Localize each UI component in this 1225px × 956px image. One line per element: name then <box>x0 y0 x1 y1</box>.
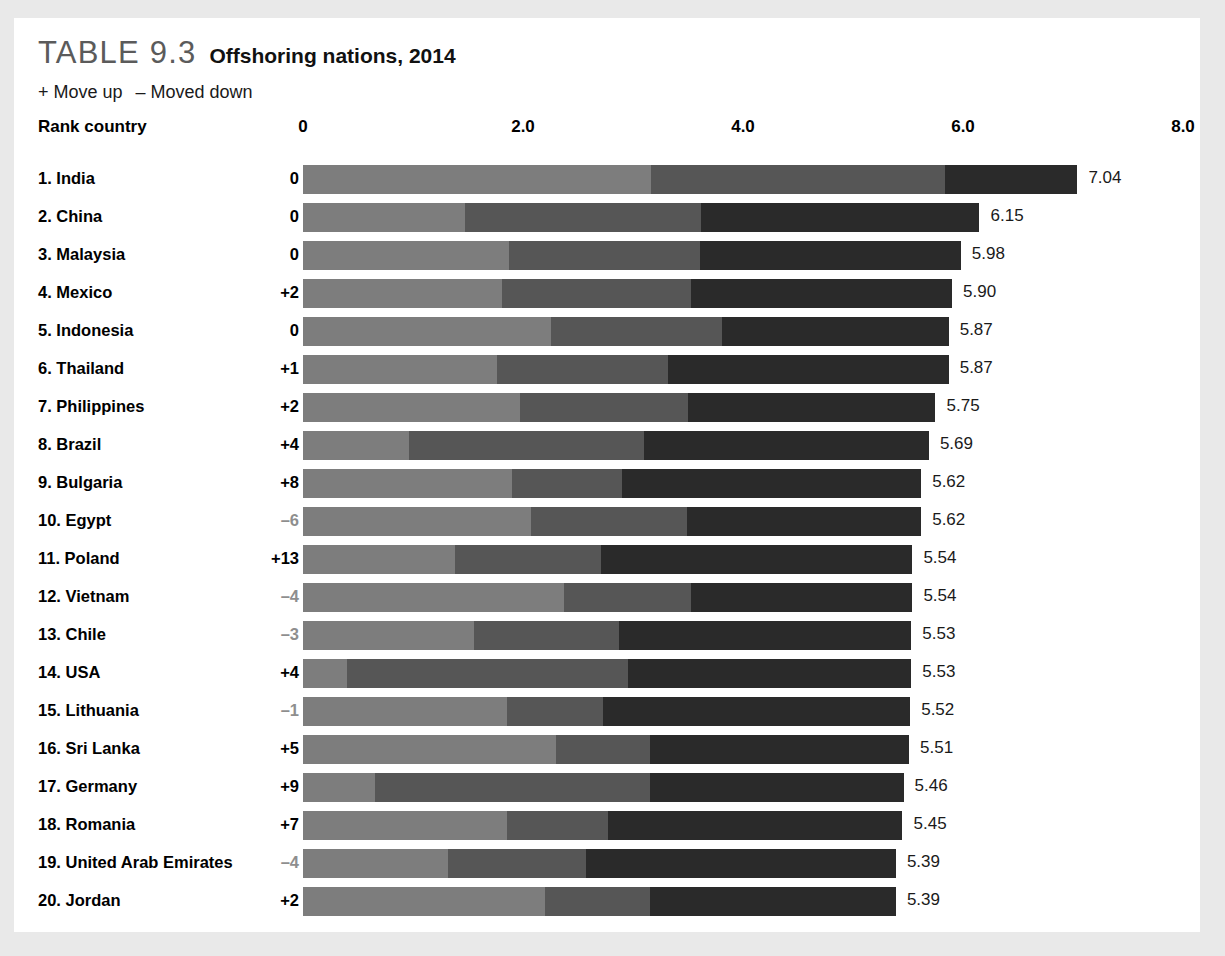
rank-change-value: +2 <box>144 283 299 302</box>
stacked-bar <box>303 241 961 270</box>
bar-segment-2 <box>507 697 604 726</box>
country-label: 14. USA <box>38 663 100 682</box>
table-row: 16. Sri Lanka+55.51 <box>14 733 1200 771</box>
page-background: TABLE 9.3Offshoring nations, 2014 + Move… <box>0 0 1225 956</box>
rank-change-value: +2 <box>144 891 299 910</box>
table-rows: 1. India07.042. China06.153. Malaysia05.… <box>14 163 1200 923</box>
country-label: 3. Malaysia <box>38 245 125 264</box>
bar-segment-1 <box>303 355 497 384</box>
table-row: 17. Germany+95.46 <box>14 771 1200 809</box>
bar-segment-3 <box>619 621 912 650</box>
stacked-bar <box>303 393 935 422</box>
country-label: 8. Brazil <box>38 435 101 454</box>
table-row: 10. Egypt–65.62 <box>14 505 1200 543</box>
bar-segment-2 <box>520 393 688 422</box>
rank-change-value: +5 <box>144 739 299 758</box>
bar-segment-3 <box>644 431 929 460</box>
country-label: 20. Jordan <box>38 891 121 910</box>
bar-value-label: 5.54 <box>923 548 956 568</box>
bar-segment-2 <box>502 279 691 308</box>
stacked-bar <box>303 469 921 498</box>
bar-segment-2 <box>531 507 687 536</box>
bar-segment-2 <box>509 241 700 270</box>
bar-segment-1 <box>303 507 531 536</box>
bar-segment-2 <box>375 773 650 802</box>
bar-segment-2 <box>551 317 723 346</box>
table-row: 2. China06.15 <box>14 201 1200 239</box>
bar-segment-2 <box>347 659 628 688</box>
rank-change-value: 0 <box>144 245 299 264</box>
bar-segment-2 <box>465 203 702 232</box>
x-axis-tick-6-0: 6.0 <box>951 117 975 137</box>
bar-segment-3 <box>722 317 949 346</box>
bar-segment-3 <box>601 545 912 574</box>
table-row: 18. Romania+75.45 <box>14 809 1200 847</box>
stacked-bar <box>303 431 929 460</box>
bar-segment-1 <box>303 697 507 726</box>
x-axis-tick-8-0: 8.0 <box>1171 117 1195 137</box>
country-label: 11. Poland <box>38 549 120 568</box>
stacked-bar <box>303 203 979 232</box>
stacked-bar <box>303 317 949 346</box>
bar-value-label: 7.04 <box>1088 168 1121 188</box>
table-row: 7. Philippines+25.75 <box>14 391 1200 429</box>
country-label: 12. Vietnam <box>38 587 129 606</box>
stacked-bar <box>303 507 921 536</box>
stacked-bar <box>303 811 902 840</box>
bar-segment-1 <box>303 317 551 346</box>
legend: + Move up– Moved down <box>38 82 253 103</box>
bar-segment-1 <box>303 545 455 574</box>
bar-segment-1 <box>303 279 502 308</box>
bar-value-label: 5.90 <box>963 282 996 302</box>
stacked-bar <box>303 697 910 726</box>
table-row: 11. Poland+135.54 <box>14 543 1200 581</box>
table-number: TABLE 9.3 <box>38 35 196 70</box>
rank-change-value: +9 <box>144 777 299 796</box>
bar-value-label: 5.54 <box>923 586 956 606</box>
country-label: 5. Indonesia <box>38 321 133 340</box>
bar-segment-1 <box>303 431 409 460</box>
table-caption: Offshoring nations, 2014 <box>209 44 455 67</box>
country-label: 13. Chile <box>38 625 106 644</box>
bar-segment-3 <box>687 507 921 536</box>
country-label: 15. Lithuania <box>38 701 139 720</box>
bar-segment-1 <box>303 621 474 650</box>
stacked-bar <box>303 355 949 384</box>
bar-segment-2 <box>651 165 946 194</box>
rank-change-value: –3 <box>144 625 299 644</box>
rank-change-value: +13 <box>144 549 299 568</box>
bar-segment-1 <box>303 659 347 688</box>
stacked-bar <box>303 773 904 802</box>
x-axis-tick-0: 0 <box>298 117 307 137</box>
bar-segment-1 <box>303 241 509 270</box>
country-label: 1. India <box>38 169 95 188</box>
bar-segment-1 <box>303 887 545 916</box>
table-row: 3. Malaysia05.98 <box>14 239 1200 277</box>
bar-segment-3 <box>691 279 952 308</box>
legend-moved-down: – Moved down <box>136 82 253 102</box>
rank-change-value: 0 <box>144 169 299 188</box>
bar-value-label: 5.62 <box>932 510 965 530</box>
rank-change-value: –1 <box>144 701 299 720</box>
bar-segment-2 <box>448 849 586 878</box>
bar-value-label: 5.87 <box>960 320 993 340</box>
bar-segment-2 <box>545 887 650 916</box>
x-axis-tick-2-0: 2.0 <box>511 117 535 137</box>
bar-segment-3 <box>650 735 910 764</box>
bar-segment-1 <box>303 849 448 878</box>
rank-change-value: –4 <box>144 587 299 606</box>
stacked-bar <box>303 621 911 650</box>
bar-segment-3 <box>586 849 896 878</box>
bar-segment-3 <box>608 811 903 840</box>
table-row: 9. Bulgaria+85.62 <box>14 467 1200 505</box>
table-card: TABLE 9.3Offshoring nations, 2014 + Move… <box>14 18 1200 932</box>
bar-segment-2 <box>474 621 619 650</box>
table-row: 1. India07.04 <box>14 163 1200 201</box>
country-label: 7. Philippines <box>38 397 144 416</box>
bar-segment-2 <box>564 583 692 612</box>
stacked-bar <box>303 735 909 764</box>
bar-segment-3 <box>622 469 921 498</box>
bar-value-label: 6.15 <box>991 206 1024 226</box>
rank-change-value: –4 <box>144 853 299 872</box>
bar-segment-3 <box>945 165 1077 194</box>
